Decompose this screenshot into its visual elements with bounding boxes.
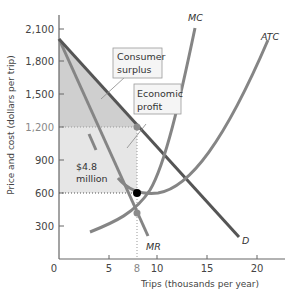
profit-amount-1: $4.8 [76,161,97,172]
svg-text:2,100: 2,100 [25,24,54,35]
svg-text:5: 5 [106,263,112,274]
svg-text:10: 10 [151,263,164,274]
svg-text:15: 15 [201,263,214,274]
chart-svg: Consumer surplus Economic profit $4.8 mi… [0,0,297,297]
mr-label: MR [146,241,161,252]
svg-text:900: 900 [35,155,54,166]
x-axis-title: Trips (thousands per year) [140,279,259,289]
svg-text:0: 0 [51,263,57,274]
mc-mr-point [134,210,141,217]
svg-text:600: 600 [35,188,54,199]
economic-profit-label-1: Economic [137,88,183,99]
profit-amount-2: million [76,173,108,184]
consumer-surplus-label-1: Consumer [117,51,166,62]
svg-text:1,800: 1,800 [25,56,54,67]
economic-profit-label-2: profit [137,101,163,112]
monopoly-chart: Consumer surplus Economic profit $4.8 mi… [0,0,297,297]
svg-text:8: 8 [134,263,140,274]
y-tick-labels: 2,100 1,800 1,500 1,200 900 600 300 [25,24,54,232]
svg-text:1,200: 1,200 [25,122,54,133]
atc-label: ATC [260,31,280,42]
y-axis-title: Price and cost (dollars per trip) [6,55,16,194]
mc-label: MC [188,12,203,23]
consumer-surplus-label-2: surplus [117,64,152,75]
atc-point [133,189,141,197]
price-point [134,124,141,131]
svg-text:300: 300 [35,221,54,232]
d-label: D [242,235,249,246]
svg-text:20: 20 [251,263,264,274]
svg-text:1,500: 1,500 [25,89,54,100]
x-tick-labels: 0 5 8 10 15 20 [51,263,264,274]
